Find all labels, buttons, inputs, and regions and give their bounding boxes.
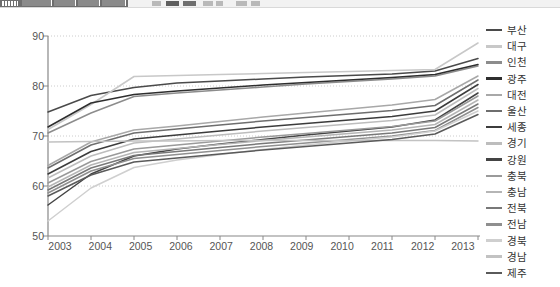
toolbar-icon-5[interactable] <box>216 1 223 6</box>
legend-label: 충남 <box>507 186 527 198</box>
y-tick-label: 90 <box>18 31 44 41</box>
x-tick-label: 2006 <box>164 240 198 252</box>
toolbar-button-2[interactable] <box>54 0 76 6</box>
grid-icon[interactable] <box>2 1 18 6</box>
legend-label: 울산 <box>507 105 527 117</box>
legend-color-swatch <box>486 158 502 161</box>
legend-label: 충북 <box>507 170 527 182</box>
legend-label: 대전 <box>507 89 527 101</box>
legend-label: 인천 <box>507 56 527 68</box>
chart-screenshot: 5060708090 20032004200520062007200820092… <box>0 0 560 287</box>
legend-color-swatch <box>486 45 502 48</box>
legend-item[interactable]: 대전 <box>486 87 560 103</box>
legend-item[interactable]: 부산 <box>486 22 560 38</box>
legend-color-swatch <box>486 223 502 226</box>
toolbar-icon-1[interactable] <box>152 1 161 6</box>
legend-color-swatch <box>486 126 502 129</box>
legend-color-swatch <box>486 29 502 32</box>
legend-item[interactable]: 경남 <box>486 249 560 265</box>
legend-item[interactable]: 충북 <box>486 168 560 184</box>
legend-item[interactable]: 인천 <box>486 54 560 70</box>
x-axis: 2003200420052006200720082009201020112012… <box>48 240 480 260</box>
x-tick-label: 2010 <box>325 240 359 252</box>
x-tick-label: 2007 <box>204 240 238 252</box>
legend-label: 경남 <box>507 251 527 263</box>
legend-color-swatch <box>486 272 502 275</box>
toolbar-icon-2[interactable] <box>166 1 179 6</box>
x-tick-label: 2009 <box>285 240 319 252</box>
legend-color-swatch <box>486 255 502 258</box>
legend-label: 대구 <box>507 40 527 52</box>
legend-item[interactable]: 전남 <box>486 216 560 232</box>
toolbar-icon-6[interactable] <box>236 1 247 6</box>
legend-color-swatch <box>486 142 502 145</box>
legend-color-swatch <box>486 77 502 80</box>
legend-color-swatch <box>486 239 502 242</box>
legend-label: 강원 <box>507 154 527 166</box>
y-tick-label: 60 <box>18 181 44 191</box>
legend[interactable]: 부산대구인천광주대전울산세종경기강원충북충남전북전남경북경남제주 <box>486 22 560 281</box>
legend-item[interactable]: 세종 <box>486 119 560 135</box>
legend-label: 제주 <box>507 267 527 279</box>
legend-color-swatch <box>486 191 502 194</box>
legend-item[interactable]: 강원 <box>486 152 560 168</box>
legend-item[interactable]: 충남 <box>486 184 560 200</box>
x-tick-label: 2013 <box>446 240 480 252</box>
toolbar-icon-7[interactable] <box>251 1 260 6</box>
legend-item[interactable]: 울산 <box>486 103 560 119</box>
toolbar-icon-3[interactable] <box>183 1 196 6</box>
legend-label: 전북 <box>507 202 527 214</box>
legend-color-swatch <box>486 94 502 97</box>
x-tick-label: 2004 <box>83 240 117 252</box>
y-tick-label: 50 <box>18 231 44 241</box>
legend-label: 전남 <box>507 218 527 230</box>
legend-label: 경북 <box>507 235 527 247</box>
legend-item[interactable]: 경기 <box>486 135 560 151</box>
x-tick-label: 2003 <box>43 240 77 252</box>
x-tick-label: 2012 <box>406 240 440 252</box>
y-tick-label: 70 <box>18 131 44 141</box>
toolbar-button-4[interactable] <box>102 0 126 6</box>
x-tick-label: 2008 <box>244 240 278 252</box>
legend-item[interactable]: 제주 <box>486 265 560 281</box>
application-toolbar[interactable] <box>0 0 560 8</box>
legend-item[interactable]: 광주 <box>486 71 560 87</box>
legend-color-swatch <box>486 207 502 210</box>
series-lines <box>48 43 478 221</box>
legend-item[interactable]: 전북 <box>486 200 560 216</box>
legend-item[interactable]: 대구 <box>486 38 560 54</box>
toolbar-button-1[interactable] <box>22 0 52 6</box>
legend-label: 경기 <box>507 137 527 149</box>
toolbar-icon-4[interactable] <box>203 1 213 6</box>
legend-label: 광주 <box>507 73 527 85</box>
y-tick-label: 80 <box>18 81 44 91</box>
chart-plot-area: 5060708090 20032004200520062007200820092… <box>0 8 560 287</box>
legend-item[interactable]: 경북 <box>486 232 560 248</box>
toolbar-button-3[interactable] <box>78 0 100 6</box>
legend-color-swatch <box>486 110 502 113</box>
y-axis: 5060708090 <box>0 8 44 287</box>
legend-color-swatch <box>486 61 502 64</box>
series-line <box>48 85 478 175</box>
x-tick-label: 2011 <box>365 240 399 252</box>
legend-label: 부산 <box>507 24 527 36</box>
x-tick-label: 2005 <box>124 240 158 252</box>
series-line <box>48 141 478 143</box>
legend-color-swatch <box>486 175 502 178</box>
legend-label: 세종 <box>507 121 527 133</box>
